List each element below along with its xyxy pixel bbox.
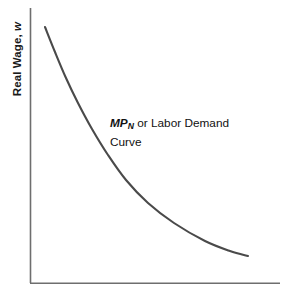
curve-annotation-line1-rest: or Labor Demand [134,116,229,130]
y-axis-label-text: Real Wage, [11,31,23,96]
figure-canvas: Real Wage, w MPN or Labor Demand Curve [0,0,286,295]
curve-annotation: MPN or Labor Demand Curve [110,115,260,151]
curve-annotation-line2: Curve [110,134,260,151]
curve-annotation-line1: MPN or Labor Demand [110,115,260,134]
mp-symbol: MP [110,116,128,130]
y-axis-label: Real Wage, w [6,11,28,107]
y-axis-label-variable: w [11,22,23,31]
